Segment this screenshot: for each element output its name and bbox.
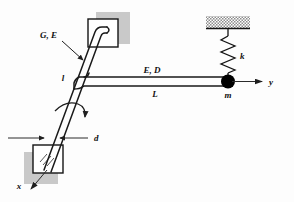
label-mass: m: [224, 90, 231, 100]
horizontal-beam: [74, 73, 232, 89]
ceiling-hatch: [206, 16, 250, 28]
label-shaft-material: G, E: [40, 30, 57, 40]
label-shaft-diameter: d: [94, 133, 99, 143]
fixed-support-lower: [24, 145, 63, 184]
label-spring-constant: k: [240, 51, 245, 61]
helical-spring: [221, 29, 235, 80]
shaft-edge-right: [51, 33, 107, 172]
rotation-direction-arrow: [55, 103, 85, 117]
torsion-arc: [55, 103, 85, 117]
label-axis-y: y: [268, 77, 274, 87]
label-beam-material: E, D: [142, 65, 161, 75]
label-shaft-length: l: [62, 73, 65, 83]
fixed-ceiling: [206, 16, 250, 29]
material-leader-line: [62, 41, 83, 60]
label-beam-length: L: [151, 89, 158, 99]
label-axis-x: x: [16, 181, 22, 191]
spring-coils: [221, 36, 235, 73]
diagram-canvas: G, E l d E, D L k m y x: [0, 0, 294, 202]
figure-root: G, E l d E, D L k m y x: [0, 0, 294, 202]
